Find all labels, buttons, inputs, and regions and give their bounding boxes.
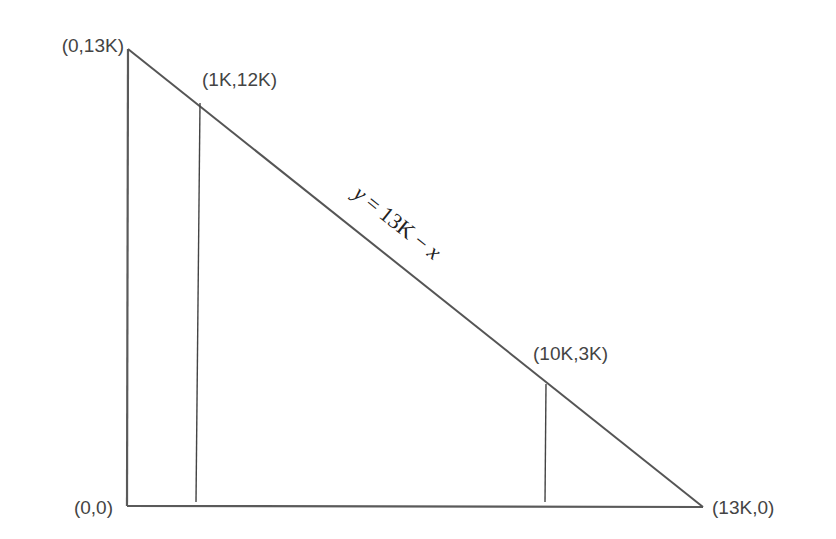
vertical-line-10k	[545, 384, 546, 502]
y-axis-edge	[127, 49, 128, 506]
label-right-vertex: (13K,0)	[712, 497, 774, 518]
label-point-1k-12k: (1K,12K)	[202, 69, 277, 90]
diagram-canvas: (0,13K) (0,0) (13K,0) (1K,12K) (10K,3K) …	[0, 0, 836, 539]
label-origin: (0,0)	[74, 497, 113, 518]
x-axis-edge	[127, 506, 703, 507]
eq-middle: = 13K −	[357, 186, 439, 258]
vertical-line-1k	[196, 103, 200, 502]
hypotenuse-edge	[128, 49, 703, 507]
hypotenuse-equation: y = 13K − x	[347, 179, 446, 265]
label-top-vertex: (0,13K)	[62, 35, 124, 56]
label-point-10k-3k: (10K,3K)	[533, 343, 608, 364]
triangle-diagram: (0,13K) (0,0) (13K,0) (1K,12K) (10K,3K) …	[0, 0, 836, 539]
